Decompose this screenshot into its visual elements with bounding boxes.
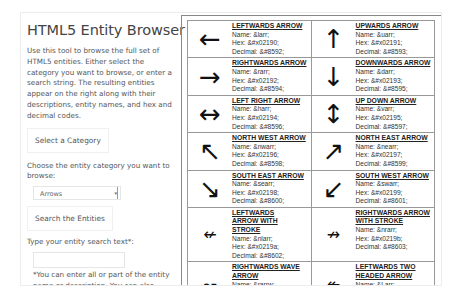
category-prompt: Choose the entity category you want to b… [27, 161, 175, 183]
entity-decimal: Decimal: &#8598; [232, 160, 311, 169]
entity-name: Name: &Larr; [356, 281, 435, 286]
entity-cell[interactable]: ↖ NORTH WEST ARROWName: &nwarr;Hex: &#x0… [188, 133, 312, 169]
entity-title: NORTH WEST ARROW [232, 134, 311, 143]
downwards-arrow-icon: ↓ [312, 58, 356, 94]
entity-title: UP DOWN ARROW [356, 97, 435, 106]
leftwards-arrow-icon: ← [188, 21, 232, 57]
entity-hex: Hex: &#x02196; [232, 151, 311, 160]
entity-cell[interactable]: ↘ SOUTH EAST ARROWName: &searr;Hex: &#x0… [188, 171, 312, 207]
entity-hex: Hex: &#x02191; [356, 39, 435, 48]
category-select-value: Arrows [40, 190, 62, 198]
entity-grid: ← LEFTWARDS ARROWName: &larr;Hex: &#x021… [187, 20, 435, 286]
entity-name: Name: &searr; [232, 180, 311, 189]
chevron-down-icon: ▾ [111, 187, 118, 199]
intro-text: Use this tool to browse the full set of … [27, 46, 175, 122]
entity-hex: Hex: &#x02198; [232, 189, 311, 198]
entity-title: RIGHTWARDS WAVE ARROW [232, 263, 302, 280]
page-title: HTML5 Entity Browser [27, 22, 175, 38]
entity-title: LEFTWARDS TWO HEADED ARROW [356, 263, 432, 280]
entity-decimal: Decimal: &#8595; [356, 85, 435, 94]
entity-hex: Hex: &#x0219b; [356, 235, 435, 244]
entity-name: Name: &nlarr; [232, 235, 311, 244]
entity-name: Name: &nwarr; [232, 143, 311, 152]
entity-title: NORTH EAST ARROW [356, 134, 435, 143]
entity-cell[interactable]: ↑ UPWARDS ARROWName: &uarr;Hex: &#x02191… [312, 21, 435, 57]
entity-title: LEFT RIGHT ARROW [232, 97, 311, 106]
entity-name: Name: &rarr; [232, 68, 311, 77]
entity-title: RIGHTWARDS ARROW WITH STROKE [356, 209, 432, 226]
rightwards-arrow-with-stroke-icon: ↛ [312, 208, 356, 262]
entity-row: ↚ LEFTWARDS ARROW WITH STROKEName: &nlar… [188, 208, 434, 263]
entity-cell[interactable]: ↙ SOUTH WEST ARROWName: &swarr;Hex: &#x0… [312, 171, 435, 207]
entity-title: DOWNWARDS ARROW [356, 59, 435, 68]
entity-title: SOUTH WEST ARROW [356, 172, 435, 181]
entity-row: ↔ LEFT RIGHT ARROWName: &harr;Hex: &#x02… [188, 96, 434, 133]
results-frame: ← LEFTWARDS ARROWName: &larr;Hex: &#x021… [181, 15, 442, 286]
entity-decimal: Decimal: &#8601; [356, 197, 435, 206]
entity-name: Name: &nrarr; [356, 226, 435, 235]
entity-hex: Hex: &#x02194; [232, 114, 311, 123]
entity-cell[interactable]: ↚ LEFTWARDS ARROW WITH STROKEName: &nlar… [188, 208, 312, 262]
entity-hex: Hex: &#x02199; [356, 189, 435, 198]
entity-decimal: Decimal: &#8602; [232, 252, 311, 261]
entity-browser-page: HTML5 Entity Browser Use this tool to br… [20, 12, 442, 286]
north-west-arrow-icon: ↖ [188, 133, 232, 169]
rightwards-wave-arrow-icon: ↝ [188, 262, 232, 286]
upwards-arrow-icon: ↑ [312, 21, 356, 57]
entity-cell[interactable]: ↗ NORTH EAST ARROWName: &nearr;Hex: &#x0… [312, 133, 435, 169]
entity-name: Name: &swarr; [356, 180, 435, 189]
entity-name: Name: &uarr; [356, 31, 435, 40]
entity-name: Name: &larr; [232, 31, 311, 40]
entity-row: ← LEFTWARDS ARROWName: &larr;Hex: &#x021… [188, 21, 434, 58]
entity-hex: Hex: &#x02193; [356, 77, 435, 86]
entity-hex: Hex: &#x02197; [356, 151, 435, 160]
entity-cell[interactable]: ↞ LEFTWARDS TWO HEADED ARROWName: &Larr;… [312, 262, 435, 286]
entity-name: Name: &harr; [232, 105, 311, 114]
search-input[interactable] [33, 252, 125, 268]
entity-cell[interactable]: ↛ RIGHTWARDS ARROW WITH STROKEName: &nra… [312, 208, 435, 262]
entity-row: → RIGHTWARDS ARROWName: &rarr;Hex: &#x02… [188, 58, 434, 95]
south-west-arrow-icon: ↙ [312, 171, 356, 207]
rightwards-arrow-icon: → [188, 58, 232, 94]
entity-row: ↖ NORTH WEST ARROWName: &nwarr;Hex: &#x0… [188, 133, 434, 170]
north-east-arrow-icon: ↗ [312, 133, 356, 169]
entity-cell[interactable]: ↔ LEFT RIGHT ARROWName: &harr;Hex: &#x02… [188, 96, 312, 132]
entity-decimal: Decimal: &#8600; [232, 197, 311, 206]
entity-hex: Hex: &#x0219a; [232, 243, 311, 252]
entity-title: LEFTWARDS ARROW WITH STROKE [232, 209, 302, 235]
entity-row: ↘ SOUTH EAST ARROWName: &searr;Hex: &#x0… [188, 171, 434, 208]
leftwards-arrow-with-stroke-icon: ↚ [188, 208, 232, 262]
sidebar: HTML5 Entity Browser Use this tool to br… [27, 13, 175, 285]
entity-decimal: Decimal: &#8597; [356, 123, 435, 132]
entity-name: Name: &nearr; [356, 143, 435, 152]
entity-decimal: Decimal: &#8592; [232, 48, 311, 57]
search-prompt: Type your entity search text*: [27, 237, 175, 248]
category-select[interactable]: Arrows ▾ [33, 186, 121, 200]
entity-row: ↝ RIGHTWARDS WAVE ARROWName: &rarrw;Hex:… [188, 262, 434, 286]
search-note: *You can enter all or part of the entity… [33, 270, 175, 286]
left-right-arrow-icon: ↔ [188, 96, 232, 132]
entity-cell[interactable]: ↝ RIGHTWARDS WAVE ARROWName: &rarrw;Hex:… [188, 262, 312, 286]
select-category-button[interactable]: Select a Category [27, 128, 109, 153]
entity-decimal: Decimal: &#8596; [232, 123, 311, 132]
entity-decimal: Decimal: &#8594; [232, 85, 311, 94]
entity-name: Name: &darr; [356, 68, 435, 77]
leftwards-two-headed-arrow-icon: ↞ [312, 262, 356, 286]
entity-cell[interactable]: ← LEFTWARDS ARROWName: &larr;Hex: &#x021… [188, 21, 312, 57]
south-east-arrow-icon: ↘ [188, 171, 232, 207]
entity-name: Name: &rarrw; [232, 281, 311, 286]
entity-cell[interactable]: ↕ UP DOWN ARROWName: &varr;Hex: &#x02195… [312, 96, 435, 132]
entity-decimal: Decimal: &#8599; [356, 160, 435, 169]
entity-title: LEFTWARDS ARROW [232, 22, 311, 31]
entity-title: UPWARDS ARROW [356, 22, 435, 31]
entity-hex: Hex: &#x02190; [232, 39, 311, 48]
entity-title: RIGHTWARDS ARROW [232, 59, 311, 68]
entity-hex: Hex: &#x02192; [232, 77, 311, 86]
entity-cell[interactable]: ↓ DOWNWARDS ARROWName: &darr;Hex: &#x021… [312, 58, 435, 94]
entity-decimal: Decimal: &#8603; [356, 243, 435, 252]
entity-cell[interactable]: → RIGHTWARDS ARROWName: &rarr;Hex: &#x02… [188, 58, 312, 94]
entity-title: SOUTH EAST ARROW [232, 172, 311, 181]
entity-name: Name: &varr; [356, 105, 435, 114]
search-entities-button[interactable]: Search the Entities [27, 206, 113, 231]
entity-decimal: Decimal: &#8593; [356, 48, 435, 57]
